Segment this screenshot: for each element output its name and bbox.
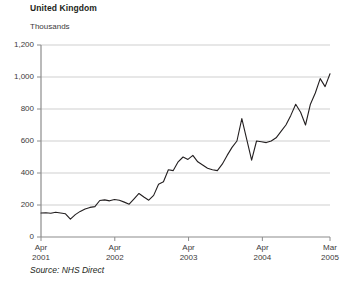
- x-tick-month: Apr: [237, 243, 287, 253]
- line-chart-plot: [0, 0, 351, 281]
- y-axis-tick-label: 800: [0, 104, 34, 113]
- source-note: Source: NHS Direct: [30, 265, 104, 275]
- x-axis-tick-label: Apr2002: [90, 243, 140, 263]
- x-axis-tick-label: Mar2005: [305, 243, 351, 263]
- x-tick-year: 2002: [90, 253, 140, 263]
- x-axis-tick-label: Apr2003: [164, 243, 214, 263]
- x-tick-month: Apr: [164, 243, 214, 253]
- y-axis-tick-label: 0: [0, 232, 34, 241]
- x-axis-tick-label: Apr2004: [237, 243, 287, 263]
- y-axis-tick-label: 400: [0, 168, 34, 177]
- x-tick-year: 2001: [16, 253, 66, 263]
- x-tick-month: Apr: [90, 243, 140, 253]
- x-tick-month: Apr: [16, 243, 66, 253]
- y-axis-tick-label: 200: [0, 200, 34, 209]
- y-axis-tick-label: 1,000: [0, 72, 34, 81]
- chart-figure: United Kingdom Thousands 02004006008001,…: [0, 0, 351, 281]
- x-tick-year: 2005: [305, 253, 351, 263]
- gridlines: [37, 45, 330, 237]
- x-axis-ticks: [41, 237, 330, 241]
- x-tick-year: 2004: [237, 253, 287, 263]
- x-axis-tick-label: Apr2001: [16, 243, 66, 263]
- x-tick-month: Mar: [305, 243, 351, 253]
- x-tick-year: 2003: [164, 253, 214, 263]
- data-series-line: [41, 74, 330, 219]
- y-axis-tick-label: 600: [0, 136, 34, 145]
- y-axis-tick-label: 1,200: [0, 40, 34, 49]
